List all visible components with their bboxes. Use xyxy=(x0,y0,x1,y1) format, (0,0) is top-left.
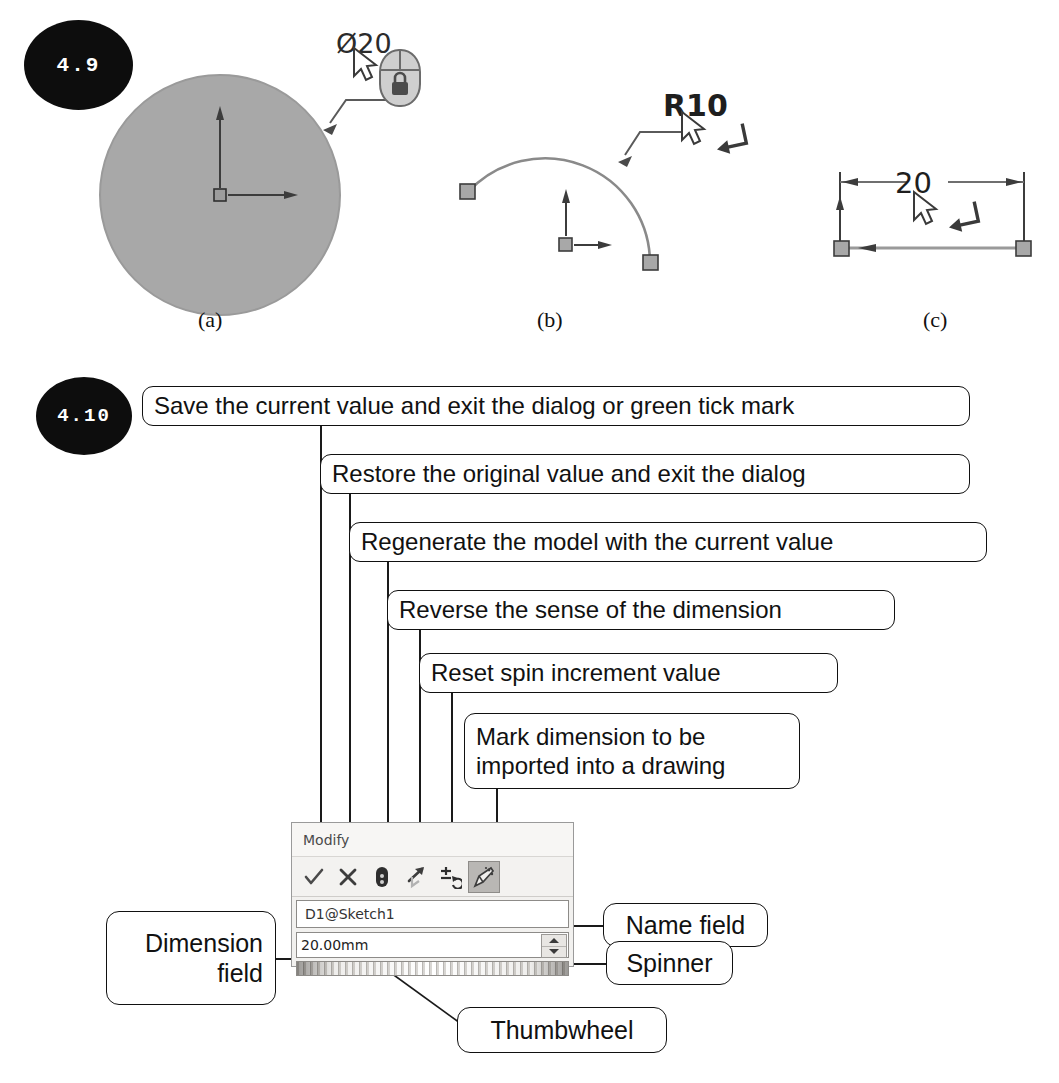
cancel-button[interactable] xyxy=(332,861,364,893)
caption-c: (c) xyxy=(923,307,947,333)
leader-line-reset xyxy=(451,691,453,830)
dimension-arrow-left xyxy=(842,178,858,186)
rebuild-icon xyxy=(372,865,392,889)
spinner-up-arrow-icon xyxy=(549,938,559,943)
callout-mark: Mark dimension to be imported into a dra… xyxy=(464,713,800,789)
label-dimension-field: Dimension field xyxy=(106,911,276,1005)
callout-save: Save the current value and exit the dial… xyxy=(142,386,970,426)
mouse-pointer-icon xyxy=(682,112,704,144)
dimension-field-input[interactable]: 20.00mm xyxy=(296,932,569,958)
mouse-with-lock-icon xyxy=(380,50,420,106)
line-endpoint-left xyxy=(834,241,849,256)
dimension-leader-arrowhead xyxy=(618,156,632,167)
arc-endpoint-left xyxy=(460,184,475,199)
callout-reset-text: Reset spin increment value xyxy=(431,659,720,687)
cursor-and-return-group-b xyxy=(676,108,766,178)
label-name-field-text: Name field xyxy=(626,911,746,940)
line-endpoint-right xyxy=(1016,241,1031,256)
axis-y-arrowhead xyxy=(836,196,844,210)
page-root: 4.9 Ø20 xyxy=(0,0,1059,1083)
accept-button[interactable] xyxy=(298,861,330,893)
return-key-icon xyxy=(945,202,980,235)
reset-increment-button[interactable] xyxy=(434,861,466,893)
name-field-value: D1@Sketch1 xyxy=(305,906,395,922)
mouse-pointer-icon xyxy=(914,192,936,224)
spinner-up-button[interactable] xyxy=(542,935,566,947)
callout-reset: Reset spin increment value xyxy=(419,653,838,693)
origin-marker xyxy=(559,238,572,251)
spinner-down-arrow-icon xyxy=(549,949,559,954)
cursor-and-mouse-group-a xyxy=(348,42,428,112)
spinner-control[interactable] xyxy=(541,934,567,958)
label-spinner: Spinner xyxy=(606,941,733,985)
modify-dialog[interactable]: Modify xyxy=(291,822,574,967)
line-direction-arrow xyxy=(858,244,876,252)
dialog-toolbar xyxy=(292,857,573,897)
name-field-input[interactable]: D1@Sketch1 xyxy=(296,900,569,928)
callout-reverse: Reverse the sense of the dimension xyxy=(387,590,895,630)
caption-b: (b) xyxy=(537,307,563,333)
caption-a: (a) xyxy=(198,307,222,333)
origin-marker xyxy=(214,189,226,201)
callout-reverse-text: Reverse the sense of the dimension xyxy=(399,596,782,624)
return-key-icon xyxy=(713,124,748,157)
arc-endpoint-right xyxy=(643,255,658,270)
mark-for-drawing-icon xyxy=(472,865,496,889)
label-thumbwheel-text: Thumbwheel xyxy=(490,1016,633,1045)
thumbwheel-control[interactable] xyxy=(296,961,569,976)
label-spinner-text: Spinner xyxy=(626,949,712,978)
check-icon xyxy=(303,866,325,888)
dimension-arrow-right xyxy=(1006,178,1022,186)
callout-mark-text: Mark dimension to be imported into a dra… xyxy=(476,722,788,781)
dimension-leader-line xyxy=(625,132,682,155)
label-thumbwheel: Thumbwheel xyxy=(457,1007,667,1053)
reverse-button[interactable] xyxy=(400,861,432,893)
cursor-and-return-group-c xyxy=(908,188,998,258)
mark-for-drawing-button[interactable] xyxy=(468,861,500,893)
callout-save-text: Save the current value and exit the dial… xyxy=(154,392,794,420)
cross-icon xyxy=(338,867,358,887)
label-dimension-field-text: Dimension field xyxy=(145,928,263,988)
mouse-pointer-icon xyxy=(354,48,376,80)
axis-x-arrowhead xyxy=(598,241,612,249)
reset-increment-icon xyxy=(438,865,462,889)
figure-number-badge-4-10: 4.10 xyxy=(36,377,132,455)
rebuild-button[interactable] xyxy=(366,861,398,893)
dialog-title-bar: Modify xyxy=(292,823,573,857)
dimension-field-value: 20.00mm xyxy=(297,937,368,953)
callout-restore-text: Restore the original value and exit the … xyxy=(332,460,806,488)
callout-regenerate-text: Regenerate the model with the current va… xyxy=(361,528,833,556)
spinner-down-button[interactable] xyxy=(542,947,566,958)
callout-regenerate: Regenerate the model with the current va… xyxy=(349,522,987,562)
dialog-title: Modify xyxy=(303,832,349,848)
axis-y-arrowhead xyxy=(562,189,570,203)
dimension-leader-arrowhead xyxy=(323,124,337,135)
reverse-arrow-icon xyxy=(405,865,427,889)
callout-restore: Restore the original value and exit the … xyxy=(320,454,970,494)
